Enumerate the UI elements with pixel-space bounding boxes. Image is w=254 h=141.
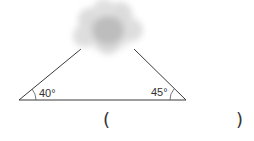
answer-blank-close-paren: )	[236, 110, 243, 130]
left-angle-arc	[32, 89, 36, 100]
answer-blank-open-paren: (	[103, 110, 110, 130]
triangle-diagram: 40° 45°	[0, 0, 254, 141]
left-angle-label: 40°	[39, 87, 56, 99]
right-angle-arc	[170, 89, 174, 100]
right-angle-label: 45°	[151, 86, 168, 98]
cloud-icon	[73, 0, 143, 54]
